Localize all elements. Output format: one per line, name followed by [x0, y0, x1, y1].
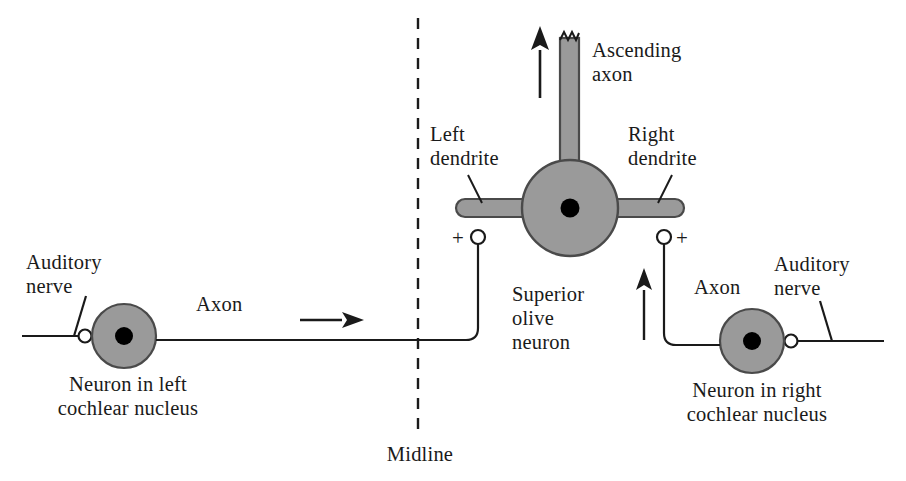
- label-left-dendrite: Left dendrite: [430, 122, 499, 170]
- axon-direction-arrow-head-left: [342, 312, 364, 328]
- label-neuron-left-cochlear: Neuron in left cochlear nucleus: [28, 372, 228, 420]
- label-midline: Midline: [368, 442, 472, 466]
- excitatory-sign-right: +: [676, 226, 688, 251]
- nucleus-left-cochlear-neuron: [115, 327, 133, 345]
- label-axon-right: Axon: [694, 275, 740, 299]
- auditory-nerve-leader-right: [820, 301, 832, 341]
- excitatory-sign-left: +: [452, 226, 464, 251]
- synapse-terminal-right-dendrite: [657, 230, 671, 244]
- ascending-axon-shaft: [560, 38, 579, 170]
- axon-direction-arrow-head-right: [636, 268, 652, 290]
- synapse-terminal-auditory-right: [785, 335, 798, 348]
- synapse-terminal-auditory-left: [79, 330, 92, 343]
- label-auditory-nerve-right: Auditory nerve: [774, 252, 850, 300]
- nucleus-superior-olive-neuron: [561, 199, 580, 218]
- label-right-dendrite: Right dendrite: [628, 122, 697, 170]
- label-superior-olive-neuron: Superior olive neuron: [512, 282, 584, 355]
- nucleus-right-cochlear-neuron: [743, 332, 761, 350]
- label-neuron-right-cochlear: Neuron in right cochlear nucleus: [652, 378, 862, 426]
- neural-circuit-diagram: Auditory nerve Axon Neuron in left cochl…: [0, 0, 906, 481]
- synapse-terminal-left-dendrite: [471, 230, 485, 244]
- label-auditory-nerve-left: Auditory nerve: [26, 250, 102, 298]
- label-axon-left: Axon: [196, 292, 242, 316]
- label-ascending-axon: Ascending axon: [592, 38, 681, 86]
- ascending-axon-arrow-head: [531, 26, 549, 50]
